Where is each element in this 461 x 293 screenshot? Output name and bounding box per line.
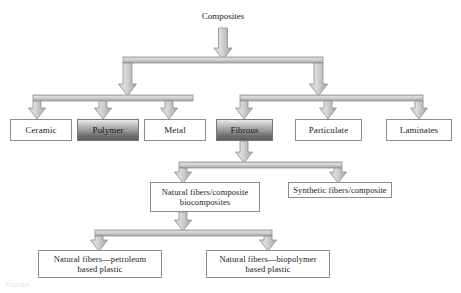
- node-synthetic-fibers-composite-label: Synthetic fibers/composite: [291, 185, 389, 195]
- arrow-split-to-right-group: [310, 63, 328, 96]
- figure-canvas: Composites Ceramic Polymer Metal Fibrous…: [0, 0, 461, 293]
- node-particulate[interactable]: Particulate: [295, 119, 362, 141]
- arrow-to-natural-fibers-biopolymer: [260, 236, 277, 251]
- arrow-to-synthetic-fibers-composite: [330, 168, 347, 183]
- node-ceramic[interactable]: Ceramic: [10, 119, 72, 141]
- arrow-fibrous-to-split: [236, 141, 253, 163]
- connector-left-group-bar: [33, 95, 193, 101]
- arrow-biocomposites-to-split: [175, 212, 192, 231]
- arrow-to-ceramic: [29, 101, 46, 119]
- node-ceramic-label: Ceramic: [23, 125, 58, 136]
- arrow-to-natural-fibers-petroleum: [91, 236, 108, 251]
- node-natural-fibers-petroleum-line1: Natural fibers—petroleum: [52, 254, 148, 264]
- node-polymer-label: Polymer: [90, 125, 125, 136]
- figure-caption-partial: FIGURE: [6, 282, 30, 288]
- arrow-to-fibrous: [236, 101, 253, 119]
- node-natural-fibers-petroleum[interactable]: Natural fibers—petroleum based plastic: [38, 250, 162, 278]
- node-metal[interactable]: Metal: [144, 119, 206, 141]
- node-polymer[interactable]: Polymer: [77, 119, 139, 141]
- arrow-to-laminates: [411, 101, 428, 119]
- arrow-split-to-left-group: [119, 63, 137, 96]
- node-natural-fibers-biopolymer[interactable]: Natural fibers—biopolymer based plastic: [206, 250, 330, 278]
- root-node-composites: Composites: [183, 11, 263, 21]
- connector-fibrous-split-bar: [179, 162, 342, 168]
- node-laminates-label: Laminates: [398, 125, 440, 136]
- node-natural-fibers-petroleum-line2: based plastic: [76, 264, 125, 274]
- node-laminates[interactable]: Laminates: [386, 119, 452, 141]
- node-natural-fibers-composite-line1: Natural fibers/composite: [160, 187, 251, 197]
- arrow-to-metal: [161, 101, 178, 119]
- node-natural-fibers-composite-line2: biocomposites: [178, 197, 232, 207]
- connector-top-split-bar: [123, 57, 323, 63]
- node-natural-fibers-composite[interactable]: Natural fibers/composite biocomposites: [150, 182, 260, 212]
- node-metal-label: Metal: [162, 125, 188, 136]
- arrow-root-to-split: [214, 28, 232, 60]
- node-natural-fibers-biopolymer-line1: Natural fibers—biopolymer: [217, 254, 318, 264]
- connector-biocomposites-split-bar: [95, 230, 272, 236]
- node-synthetic-fibers-composite[interactable]: Synthetic fibers/composite: [288, 182, 392, 198]
- arrow-to-polymer: [95, 101, 112, 119]
- node-fibrous[interactable]: Fibrous: [216, 119, 273, 141]
- arrow-to-particulate: [320, 101, 337, 119]
- node-fibrous-label: Fibrous: [228, 125, 260, 136]
- arrow-to-natural-fibers-composite: [175, 168, 192, 183]
- node-particulate-label: Particulate: [307, 125, 351, 136]
- node-natural-fibers-biopolymer-line2: based plastic: [244, 264, 293, 274]
- connector-right-group-bar: [240, 95, 423, 101]
